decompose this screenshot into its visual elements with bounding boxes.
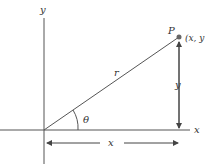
vertical-dimension-label: y: [174, 79, 181, 90]
horizontal-dimension-label: x: [108, 137, 114, 148]
angle-arc: [73, 110, 78, 130]
polar-coordinates-diagram: y x P (x, y r θ y x: [0, 0, 206, 164]
radius-line: [44, 37, 179, 130]
y-axis-label: y: [39, 4, 46, 15]
angle-label: θ: [83, 114, 89, 125]
point-label: P: [167, 25, 175, 36]
point-coords: (x, y: [185, 33, 205, 43]
x-axis-label: x: [194, 124, 200, 135]
point-p: [177, 35, 182, 40]
radius-label: r: [114, 67, 120, 78]
